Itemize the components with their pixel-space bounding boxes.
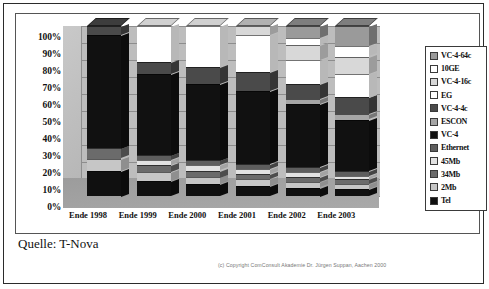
bar-segment — [186, 165, 220, 170]
bar-segment — [236, 72, 270, 91]
bar-segment — [186, 84, 220, 161]
x-axis-tick-label: Ende 2003 — [317, 210, 355, 220]
bar-segment — [87, 35, 121, 149]
stacked-bar — [286, 26, 320, 196]
bar-segment — [236, 186, 270, 196]
bar-segment-side — [270, 184, 278, 196]
x-axis-tick-label: Ende 1999 — [119, 210, 157, 220]
y-axis-tick-label: 20% — [43, 168, 61, 178]
bar-column[interactable] — [236, 26, 270, 196]
bar-segment — [236, 35, 270, 72]
bar-top-face — [87, 18, 130, 26]
bar-column[interactable] — [87, 26, 121, 196]
bar-segment — [286, 167, 320, 172]
bar-segment — [335, 176, 369, 179]
bar-top-face — [236, 18, 279, 26]
bar-segment — [335, 189, 369, 196]
chart-legend: VC-4-64c10GEVC-4-16cEGVC-4-4cESCONVC-4Et… — [425, 46, 487, 211]
bar-segment-side — [121, 157, 129, 171]
legend-label: Tel — [441, 196, 450, 205]
bar-segment — [87, 26, 121, 35]
bar-segment — [236, 169, 270, 174]
x-axis-tick-label: Ende 2002 — [268, 210, 306, 220]
bar-segment — [286, 104, 320, 167]
bar-segment — [286, 172, 320, 177]
bar-segment — [335, 184, 369, 189]
stacked-bar — [87, 26, 121, 196]
legend-item[interactable]: VC-4-64c — [428, 49, 484, 62]
legend-label: ESCON — [441, 117, 467, 126]
bar-segment-side — [369, 55, 377, 74]
bar-segment — [186, 26, 220, 67]
bar-segment-side — [171, 24, 179, 62]
legend-item[interactable]: 34Mb — [428, 168, 484, 181]
bar-segment — [186, 184, 220, 196]
legend-item[interactable]: VC-4 — [428, 128, 484, 141]
legend-swatch — [430, 197, 438, 205]
legend-item[interactable]: 2Mb — [428, 181, 484, 194]
bar-column[interactable] — [137, 26, 171, 196]
page-frame: 100%90%80%70%60%50%40%30%20%10%0% Ende 1… — [3, 3, 484, 284]
bar-segment-side — [270, 33, 278, 72]
bar-segment — [236, 91, 270, 164]
bar-segment — [137, 160, 171, 165]
bar-segment — [236, 164, 270, 169]
bar-segment — [137, 165, 171, 172]
bar-segment-side — [320, 82, 328, 99]
bar-segment — [137, 181, 171, 196]
y-axis-tick-label: 40% — [43, 134, 61, 144]
bar-column[interactable] — [286, 26, 320, 196]
copyright-note: (c) Copyright ComConsult Akademie Dr. Jü… — [218, 262, 386, 268]
legend-label: Ethernet — [441, 143, 469, 152]
bar-segment — [335, 74, 369, 98]
legend-item[interactable]: ESCON — [428, 115, 484, 128]
plot-area — [63, 26, 379, 208]
bar-segment-side — [320, 58, 328, 84]
legend-label: VC-4 — [441, 130, 458, 139]
bar-segment — [286, 99, 320, 104]
legend-item[interactable]: Ethernet — [428, 141, 484, 154]
legend-item[interactable]: Tel — [428, 194, 484, 207]
bar-segment — [335, 46, 369, 56]
bar-segment-side — [121, 169, 129, 196]
stacked-bar — [236, 26, 270, 196]
legend-swatch — [430, 65, 438, 73]
bar-segment — [137, 172, 171, 181]
bar-segment — [186, 171, 220, 178]
legend-item[interactable]: 10GE — [428, 62, 484, 75]
bar-column[interactable] — [186, 26, 220, 196]
bar-segment — [137, 74, 171, 156]
y-axis-tick-label: 60% — [43, 100, 61, 110]
bar-segment — [87, 159, 121, 171]
legend-label: 45Mb — [441, 157, 460, 166]
y-axis-tick-label: 10% — [43, 185, 61, 195]
plot-side-wall — [63, 26, 81, 196]
legend-item[interactable]: VC-4-4c — [428, 102, 484, 115]
legend-swatch — [430, 91, 438, 99]
legend-item[interactable]: VC-4-16c — [428, 75, 484, 88]
bar-segment — [286, 38, 320, 45]
bar-series-group — [81, 26, 379, 196]
legend-swatch — [430, 131, 438, 139]
legend-item[interactable]: EG — [428, 89, 484, 102]
bar-segment — [137, 26, 171, 62]
x-axis-tick-label: Ende 2001 — [218, 210, 256, 220]
legend-label: VC-4-4c — [441, 104, 467, 113]
bar-segment — [335, 97, 369, 114]
legend-swatch — [430, 144, 438, 152]
bar-column[interactable] — [335, 26, 369, 196]
bar-segment — [186, 177, 220, 184]
bar-top-face — [286, 18, 329, 26]
bar-segment-side — [270, 89, 278, 164]
bar-segment — [236, 179, 270, 186]
bar-segment — [87, 148, 121, 158]
y-axis-tick-label: 0% — [47, 202, 61, 212]
stacked-bar — [186, 26, 220, 196]
bar-segment — [286, 45, 320, 60]
x-axis-tick-label: Ende 2000 — [168, 210, 206, 220]
bar-segment-side — [320, 102, 328, 167]
bar-segment-side — [171, 179, 179, 196]
legend-swatch — [430, 170, 438, 178]
legend-item[interactable]: 45Mb — [428, 155, 484, 168]
y-axis-tick-label: 30% — [43, 151, 61, 161]
